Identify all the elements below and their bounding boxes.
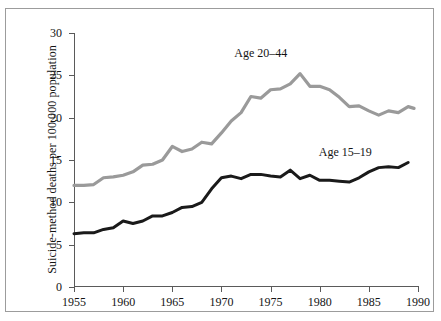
y-tick-label: 5 [56,237,62,252]
figure-container: Suicide-method deaths per 100,000 popula… [0,0,441,321]
y-tick-label: 30 [50,26,62,41]
x-tick-label: 1960 [111,295,135,310]
x-tick-label: 1975 [259,295,283,310]
series-label-age-20-44: Age 20–44 [234,46,287,61]
x-tick-label: 1985 [357,295,381,310]
series-lines [74,33,418,287]
x-tick-mark [418,286,419,292]
plot-area: 051015202530 195519601965197019751980198… [74,33,418,287]
series-line-age-20-44 [74,74,414,186]
x-tick-label: 1980 [308,295,332,310]
y-tick-label: 20 [50,110,62,125]
x-tick-label: 1990 [406,295,430,310]
x-tick-label: 1970 [209,295,233,310]
y-tick-label: 10 [50,195,62,210]
x-tick-label: 1965 [160,295,184,310]
y-tick-label: 25 [50,68,62,83]
y-tick-label: 15 [50,153,62,168]
series-label-age-15-19: Age 15–19 [319,144,372,159]
x-tick-label: 1955 [62,295,86,310]
y-tick-label: 0 [56,280,62,295]
